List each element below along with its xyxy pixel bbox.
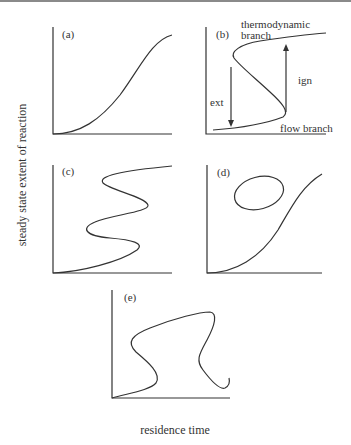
- panel-b-label: (b): [216, 28, 229, 41]
- panel-c-axes: [53, 165, 172, 273]
- panel-d-axes: [207, 165, 322, 273]
- panel-e: (e): [112, 290, 230, 398]
- panel-c-multi-s-curve: [53, 166, 172, 273]
- panel-e-label: (e): [124, 291, 137, 304]
- panel-a-label: (a): [62, 28, 75, 41]
- flow-branch-label: flow branch: [280, 122, 333, 134]
- extinction-arrowhead-icon: [228, 120, 234, 127]
- panel-d: (d): [207, 165, 322, 273]
- thermodynamic-branch-label-line2: branch: [241, 29, 271, 41]
- panel-d-curve: [207, 174, 322, 273]
- panel-a-curve: [53, 35, 172, 134]
- ignition-arrowhead-icon: [283, 44, 289, 51]
- figure-canvas: (a) (b) thermodynamic branch flow branch…: [0, 0, 351, 445]
- panel-e-mushroom-curve: [112, 312, 229, 398]
- ignition-label: ign: [298, 74, 313, 86]
- panel-a: (a): [53, 27, 172, 134]
- panel-c-label: (c): [62, 165, 75, 178]
- panel-b: (b) thermodynamic branch flow branch ign…: [206, 18, 333, 134]
- panel-d-isola: [231, 171, 288, 215]
- panel-a-axes: [53, 27, 172, 134]
- panel-c: (c): [53, 165, 172, 273]
- panel-d-label: (d): [217, 166, 230, 179]
- extinction-label: ext: [210, 96, 223, 108]
